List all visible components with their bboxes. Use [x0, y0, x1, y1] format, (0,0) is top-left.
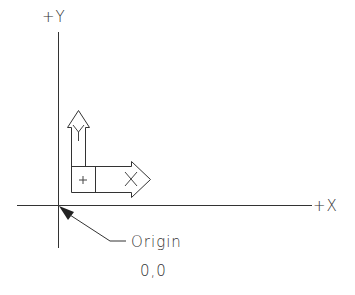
- ucs-icon: [68, 111, 151, 198]
- center-plus-icon: [79, 176, 87, 184]
- x-axis-label: +X: [313, 197, 338, 215]
- leader-arrowhead-icon: [59, 206, 74, 220]
- origin-coordinates: 0,0: [140, 262, 167, 280]
- ucs-diagram: +Y +X: [0, 0, 355, 295]
- origin-leader: [59, 206, 126, 241]
- x-letter-icon: [125, 172, 137, 186]
- origin-label: Origin: [131, 233, 182, 251]
- y-axis-label: +Y: [42, 8, 66, 26]
- y-letter-icon: [73, 125, 84, 141]
